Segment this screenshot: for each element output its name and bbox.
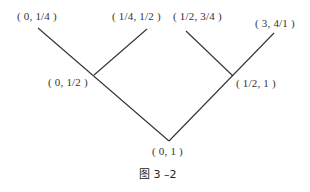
node-right-label: ( 1/2, 1 ) — [236, 77, 276, 89]
node-left-label: ( 0, 1/2 ) — [48, 76, 88, 88]
node-rl-label: ( 1/2, 3/4 ) — [173, 10, 222, 22]
edge-left-to-lr — [94, 29, 147, 75]
node-lr-label: ( 1/4, 1/2 ) — [112, 10, 161, 22]
node-ll-label: ( 0, 1/4 ) — [17, 10, 57, 22]
figure-caption: 图 3 –2 — [139, 165, 177, 181]
node-rr-label: ( 3, 4/1 ) — [255, 17, 295, 29]
edge-right-to-rl — [186, 31, 233, 76]
node-root-label: ( 0, 1 ) — [152, 145, 183, 157]
